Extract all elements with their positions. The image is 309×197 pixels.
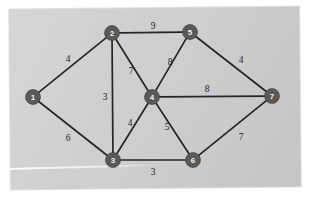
graph-edge-4-6 [156,102,190,154]
node-label-7: 7 [270,92,275,101]
graph-node-2[interactable]: 2 [105,26,120,41]
graph-node-7[interactable]: 7 [265,89,280,104]
graph-edge-6-7 [198,100,267,156]
graph-node-6[interactable]: 6 [186,153,201,168]
graph-edge-3-4 [116,103,148,155]
graph-edge-1-3 [38,101,108,156]
graph-node-4[interactable]: 4 [145,90,160,105]
edge-weight-5-7: 4 [239,55,244,65]
edge-weight-2-4: 7 [129,66,134,76]
edge-weight-1-2: 4 [66,54,71,64]
graph-node-5[interactable]: 5 [183,25,198,40]
graph-edge-2-5 [119,32,184,33]
graph-node-1[interactable]: 1 [26,90,41,105]
graph-svg: 1234567 469374385847 [0,0,309,197]
node-label-2: 2 [110,29,115,38]
node-label-6: 6 [191,156,196,165]
edge-weight-3-6: 3 [151,167,156,177]
edge-weight-4-7: 8 [205,84,210,94]
edge-weight-2-3: 3 [103,92,108,102]
edge-weight-3-4: 4 [128,118,133,128]
graph-edge-1-2 [38,37,107,93]
edge-weight-4-5: 8 [168,57,173,67]
graph-node-3[interactable]: 3 [106,153,121,168]
graph-edge-4-7 [159,96,266,97]
graph-diagram-screenshot: 1234567 469374385847 [0,0,309,197]
graph-edge-2-4 [115,39,148,92]
edge-weight-2-5: 9 [151,21,156,31]
graph-edge-2-3 [112,40,113,154]
node-label-4: 4 [150,93,155,102]
edge-weight-4-6: 5 [165,122,170,132]
node-label-3: 3 [111,156,116,165]
node-label-5: 5 [188,28,193,37]
edge-weight-6-7: 7 [239,132,244,142]
edge-weight-1-3: 6 [66,133,71,143]
node-label-1: 1 [31,93,36,102]
